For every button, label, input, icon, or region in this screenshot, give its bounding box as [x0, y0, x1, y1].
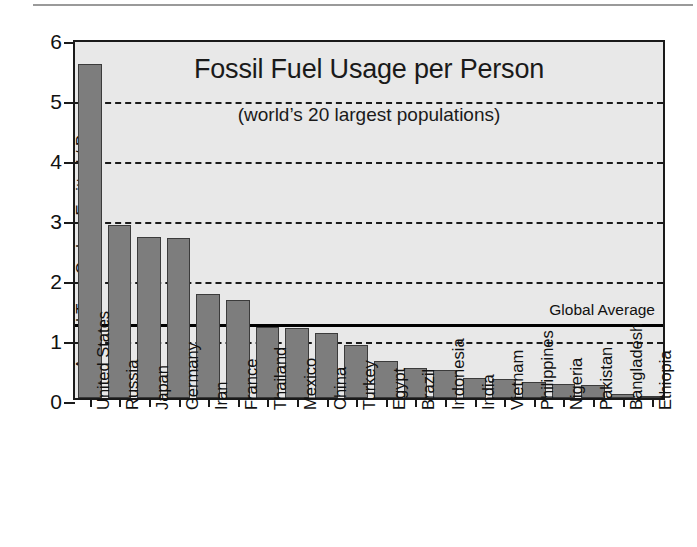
x-tick-label: India [479, 374, 498, 410]
x-tick-mark [149, 398, 151, 407]
x-tick-label: Brazil [419, 369, 438, 410]
top-divider-rule [33, 4, 693, 6]
x-tick-mark [593, 398, 595, 407]
x-tick-label: Iran [212, 382, 231, 410]
x-tick-label: United States [94, 311, 113, 410]
x-tick-label: Turkey [360, 360, 379, 410]
x-tick-label: Ethiopia [656, 350, 675, 410]
x-tick-label: Japan [153, 365, 172, 410]
x-tick-label: France [242, 359, 261, 410]
y-tick-label-3: 3 [50, 210, 62, 234]
x-tick-mark [356, 398, 358, 407]
y-tick-mark-6 [64, 42, 75, 44]
x-tick-mark [267, 398, 269, 407]
x-tick-label: Pakistan [597, 347, 616, 410]
x-tick-mark [386, 398, 388, 407]
x-tick-mark [475, 398, 477, 407]
y-tick-label-4: 4 [50, 150, 62, 174]
chart-title: Fossil Fuel Usage per Person [75, 54, 663, 85]
x-tick-mark [179, 398, 181, 407]
y-tick-label-1: 1 [50, 330, 62, 354]
x-tick-label: Thailand [271, 347, 290, 410]
x-tick-mark [652, 398, 654, 407]
x-tick-mark [327, 398, 329, 407]
x-tick-mark [445, 398, 447, 407]
bar-series [75, 42, 663, 398]
x-tick-mark [623, 398, 625, 407]
y-tick-mark-2 [64, 282, 75, 284]
x-tick-label: China [331, 367, 350, 410]
x-tick-label: Indonesia [449, 338, 468, 410]
x-tick-mark [563, 398, 565, 407]
x-tick-mark [297, 398, 299, 407]
y-tick-mark-5 [64, 102, 75, 104]
y-tick-mark-3 [64, 222, 75, 224]
y-tick-label-0: 0 [50, 390, 62, 414]
x-tick-label: Egypt [390, 368, 409, 410]
x-tick-label: Germany [183, 342, 202, 410]
y-tick-mark-1 [64, 342, 75, 344]
chart-subtitle: (world’s 20 largest populations) [75, 104, 663, 126]
y-tick-label-6: 6 [50, 30, 62, 54]
y-tick-label-2: 2 [50, 270, 62, 294]
x-tick-label: Nigeria [567, 358, 586, 410]
x-tick-mark [415, 398, 417, 407]
x-tick-mark [208, 398, 210, 407]
y-tick-mark-0 [64, 402, 75, 404]
chart-plot-area: Annual Tons Carbon Emitted / Person 0123… [73, 40, 665, 400]
x-tick-label: Russia [123, 360, 142, 410]
x-tick-mark [238, 398, 240, 407]
x-tick-label: Philippines [538, 330, 557, 410]
y-tick-mark-4 [64, 162, 75, 164]
x-tick-label: Mexico [301, 358, 320, 410]
x-tick-mark [119, 398, 121, 407]
x-tick-mark [90, 398, 92, 407]
x-tick-mark [534, 398, 536, 407]
y-tick-label-5: 5 [50, 90, 62, 114]
x-tick-label: Vietnam [508, 350, 527, 410]
x-tick-label: Bangladesh [627, 323, 646, 410]
x-tick-mark [504, 398, 506, 407]
